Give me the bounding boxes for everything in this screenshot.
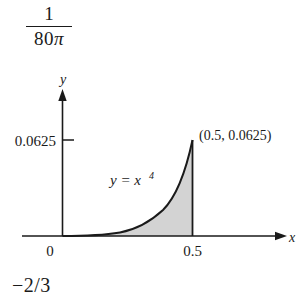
curve-equation-exponent: 4 — [149, 170, 154, 181]
function-plot: y x 0.0625 0 0.5 y = x 4 (0.5, 0.0625) — [0, 60, 308, 270]
pi-symbol: π — [54, 28, 64, 49]
y-axis-arrow-icon — [58, 89, 66, 101]
denominator-number: 80 — [34, 28, 54, 49]
fraction-bar — [26, 26, 72, 27]
point-annotation-label: (0.5, 0.0625) — [199, 128, 272, 144]
fraction-numerator: 1 — [14, 4, 84, 25]
origin-label-0: 0 — [46, 243, 54, 259]
fraction-denominator: 80π — [14, 29, 84, 49]
y-tick-label-0.0625: 0.0625 — [15, 133, 56, 149]
curve-equation-label: y = x — [108, 172, 141, 188]
figure-canvas: 1 80π y x 0.0625 0 0.5 y = x 4 (0.5, 0.0… — [0, 0, 308, 302]
bottom-fragment-expression: −2/3 — [12, 274, 51, 297]
top-fraction-expression: 1 80π — [14, 4, 84, 49]
x-axis-arrow-icon — [275, 232, 287, 240]
y-axis-label: y — [58, 72, 67, 87]
shaded-area-under-curve — [63, 140, 193, 236]
x-tick-label-0.5: 0.5 — [183, 243, 202, 259]
x-axis-label: x — [288, 230, 296, 245]
